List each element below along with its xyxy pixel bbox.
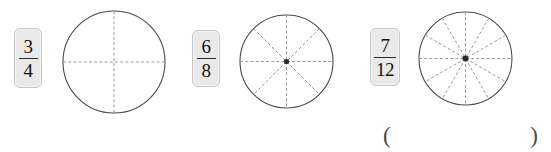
fraction-notation: 3 4: [19, 37, 38, 80]
fraction-circle-8-parts[interactable]: [239, 14, 334, 109]
fraction-circle-4-parts[interactable]: [62, 10, 166, 114]
fraction-numerator: 3: [24, 37, 33, 56]
close-paren: ): [530, 124, 538, 147]
fraction-bar-icon: [19, 58, 38, 59]
fraction-numerator: 7: [381, 36, 390, 55]
circle-center-dot: [284, 59, 289, 64]
fraction-bar-icon: [197, 58, 216, 59]
open-paren: (: [383, 124, 391, 147]
fraction-denominator: 4: [24, 61, 33, 80]
circle-diagram-svg: [418, 11, 513, 106]
fraction-numerator: 6: [202, 37, 211, 56]
fraction-denominator: 8: [202, 61, 211, 80]
fraction-notation: 7 12: [374, 36, 396, 79]
fraction-notation: 6 8: [197, 37, 216, 80]
circle-center-dot: [463, 56, 469, 62]
circle-diagram-svg: [62, 10, 166, 114]
fraction-card-6-8[interactable]: 6 8: [192, 30, 220, 87]
circle-outline: [63, 11, 165, 113]
fraction-card-3-4[interactable]: 3 4: [14, 28, 42, 88]
fraction-card-7-12[interactable]: 7 12: [370, 28, 400, 86]
answer-blank[interactable]: ( ): [383, 122, 538, 148]
fraction-denominator: 12: [376, 60, 394, 79]
fraction-bar-icon: [374, 57, 396, 58]
fraction-worksheet: 3 4 6 8: [0, 0, 551, 152]
circle-diagram-svg: [239, 14, 334, 109]
fraction-circle-12-parts[interactable]: [418, 11, 513, 106]
